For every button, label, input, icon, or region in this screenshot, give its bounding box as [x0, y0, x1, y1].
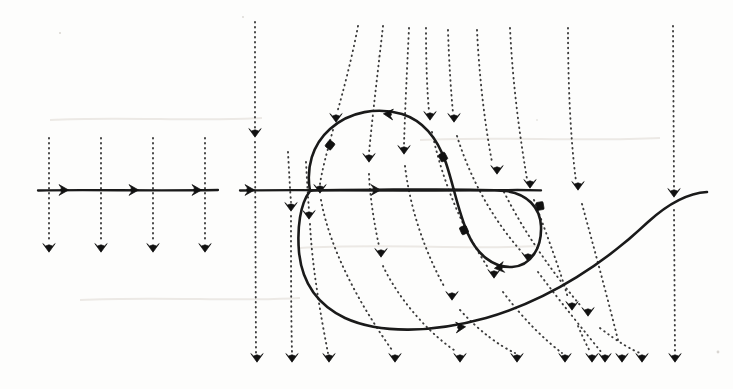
- field-line-4: [314, 26, 401, 362]
- right-field-lines: [249, 22, 681, 362]
- left-panel: [38, 138, 218, 252]
- arrowhead-right-icon: [192, 185, 202, 196]
- arrowhead-down-icon: [566, 302, 578, 311]
- arrowhead-down-icon: [375, 249, 387, 258]
- solid-loop-trajectory: [298, 108, 707, 332]
- arrowhead-down-icon: [43, 244, 55, 253]
- field-line-2: [285, 152, 298, 362]
- left-field-lines: [43, 138, 211, 252]
- arrowhead-down-icon: [424, 112, 436, 121]
- phase-portrait-canvas: [0, 0, 733, 389]
- arrowhead-down-icon: [285, 203, 297, 212]
- arrowhead-down-icon: [286, 354, 298, 363]
- field-line-7: [424, 28, 571, 362]
- arrowhead-right-icon: [245, 185, 255, 196]
- arrowhead-down-icon: [323, 354, 335, 363]
- arrowhead-down-icon: [524, 180, 536, 189]
- arrowhead-down-icon: [448, 114, 460, 123]
- arrowhead-down-icon: [586, 354, 598, 363]
- arrowhead-down-icon: [95, 244, 107, 253]
- arrowhead-down-icon: [616, 354, 628, 363]
- arrowhead-down-icon: [559, 354, 571, 363]
- flow-tick-icon: [325, 140, 336, 151]
- left-field-line-1: [43, 138, 55, 252]
- left-field-line-3: [147, 138, 159, 252]
- arrowhead-down-icon: [398, 146, 410, 155]
- arrowhead-right-icon: [59, 185, 69, 196]
- field-line-12-straight: [668, 26, 681, 362]
- arrowhead-down-icon: [389, 354, 401, 363]
- arrowhead-down-icon: [572, 182, 584, 191]
- flow-tick-icon: [536, 201, 544, 210]
- arrowhead-right-icon: [129, 185, 139, 196]
- arrowhead-down-icon: [582, 308, 594, 317]
- left-field-line-4: [199, 138, 211, 252]
- arrowhead-down-icon: [668, 189, 680, 198]
- arrowhead-down-icon: [446, 292, 458, 301]
- arrowhead-down-icon: [488, 270, 500, 279]
- left-horizontal-trajectory: [38, 185, 218, 196]
- arrowhead-down-icon: [147, 244, 159, 253]
- arrowhead-down-icon: [669, 354, 681, 363]
- arrowhead-down-icon: [636, 354, 648, 363]
- arrowhead-down-icon: [303, 211, 315, 220]
- left-field-line-2: [95, 138, 107, 252]
- arrowhead-down-icon: [491, 166, 503, 175]
- arrowhead-down-icon: [199, 244, 211, 253]
- right-panel: [240, 22, 707, 362]
- field-line-11: [568, 28, 628, 362]
- paper-texture: [50, 16, 719, 353]
- arrowhead-down-icon: [249, 129, 261, 138]
- arrowhead-down-icon: [599, 354, 611, 363]
- arrowhead-down-icon: [511, 354, 523, 363]
- arrowhead-down-icon: [363, 154, 375, 163]
- phase-portrait-figure: [0, 0, 733, 389]
- arrowhead-down-icon: [454, 354, 466, 363]
- arrowhead-down-icon: [251, 354, 263, 363]
